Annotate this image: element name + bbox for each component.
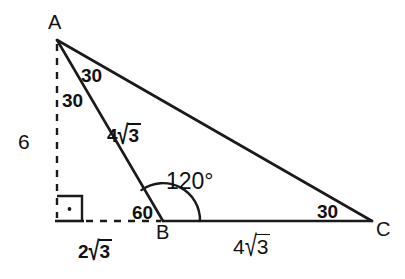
- vertex-label-c: C: [376, 219, 390, 239]
- length-label-bc: 4√3: [233, 234, 270, 258]
- angle-label-b-interior: 120°: [166, 170, 214, 193]
- radical-sign-icon: √: [89, 238, 100, 265]
- angle-label-b-exterior: 60: [132, 203, 153, 222]
- segment-ac: [57, 40, 372, 221]
- radical-sign-icon: √: [118, 122, 129, 149]
- vertex-label-a: A: [48, 12, 61, 32]
- length-label-ab: 4√3: [107, 123, 141, 146]
- length-label-foot-to-b: 2√3: [78, 239, 112, 262]
- angle-label-c: 30: [317, 202, 338, 221]
- length-foot-to-b-radicand: 3: [99, 239, 113, 261]
- length-bc-radicand: 3: [256, 234, 271, 257]
- angle-label-a-upper: 30: [81, 66, 102, 85]
- radical-group-foot-to-b: √3: [89, 239, 113, 262]
- figure-canvas: [0, 0, 405, 279]
- radical-group-ab: √3: [118, 123, 142, 146]
- length-label-altitude: 6: [18, 131, 30, 152]
- radical-group-bc: √3: [245, 234, 271, 258]
- radical-sign-icon: √: [245, 232, 257, 262]
- length-ab-radicand: 3: [128, 123, 142, 145]
- angle-label-a-lower: 30: [62, 91, 83, 110]
- right-angle-dot: [68, 207, 72, 211]
- vertex-label-b: B: [156, 222, 169, 242]
- length-ab-coefficient: 4: [107, 125, 118, 146]
- length-bc-coefficient: 4: [233, 235, 245, 258]
- length-foot-to-b-coefficient: 2: [78, 241, 89, 262]
- geometry-diagram: A B C 30 30 60 120° 30 6 4√3 2√3 4√3: [0, 0, 405, 279]
